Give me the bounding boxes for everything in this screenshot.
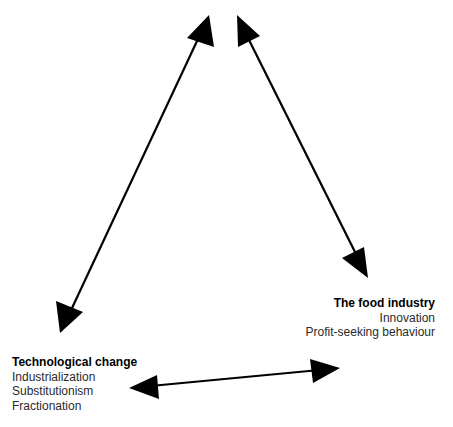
double-arrow-top-to-technological-change: [56, 15, 214, 333]
double-arrow-top-to-food-industry: [237, 15, 368, 278]
relationship-diagram: Technological change Industrialization S…: [0, 0, 453, 427]
node-title: The food industry: [306, 296, 435, 311]
node-technological-change: Technological change Industrialization S…: [12, 355, 137, 413]
node-item: Profit-seeking behaviour: [306, 325, 435, 340]
node-item: Fractionation: [12, 399, 137, 414]
node-item: Innovation: [306, 311, 435, 326]
node-item: Industrialization: [12, 370, 137, 385]
node-title: Technological change: [12, 355, 137, 370]
double-arrow-technological-change-to-food-industry: [129, 359, 340, 399]
node-food-industry: The food industry Innovation Profit-seek…: [306, 296, 435, 340]
node-item: Substitutionism: [12, 384, 137, 399]
